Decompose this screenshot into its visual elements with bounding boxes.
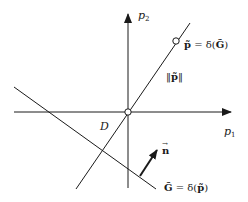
normal-vector-n — [140, 150, 157, 176]
diagram: p2 p1 p̃ = δ(G̃) ‖p̃‖ D n → G̃ = δ(p̃) — [0, 0, 248, 202]
line-g-label: G̃ = δ(p̃) — [164, 182, 208, 193]
norm-p-label: ‖p̃‖ — [166, 71, 183, 83]
y-axis-label: p2 — [138, 9, 150, 23]
origin-point — [125, 109, 131, 115]
point-p-label: p̃ = δ(G̃) — [184, 39, 228, 50]
line-p — [76, 23, 190, 189]
line-G — [14, 87, 156, 189]
x-axis-label: p1 — [224, 125, 236, 139]
normal-n-arrow-accent: → — [162, 140, 168, 148]
point-p — [173, 38, 179, 44]
region-d-label: D — [99, 120, 109, 133]
